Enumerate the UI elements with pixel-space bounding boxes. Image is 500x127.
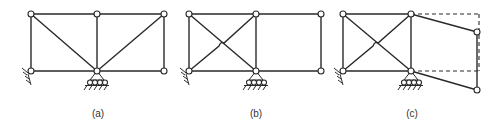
joint [474,29,480,35]
panel-b-truss [180,11,324,90]
joint [408,68,414,74]
joint [318,11,324,17]
joint [340,11,346,17]
joint [318,68,324,74]
joint [94,68,100,74]
joint [94,11,100,17]
panel-label-b: (b) [250,108,262,119]
joint [253,11,259,17]
panel-label-c: (c) [406,108,418,119]
joint [340,68,346,74]
joint [474,87,480,93]
joint [161,11,167,17]
joint [186,68,192,74]
panel-c-truss [334,11,480,93]
panel-label-a: (a) [92,108,104,119]
panel-a-truss [22,11,167,90]
joint [28,11,34,17]
joint [161,68,167,74]
joint [186,11,192,17]
joint [28,68,34,74]
joint [408,11,414,17]
joint [253,68,259,74]
